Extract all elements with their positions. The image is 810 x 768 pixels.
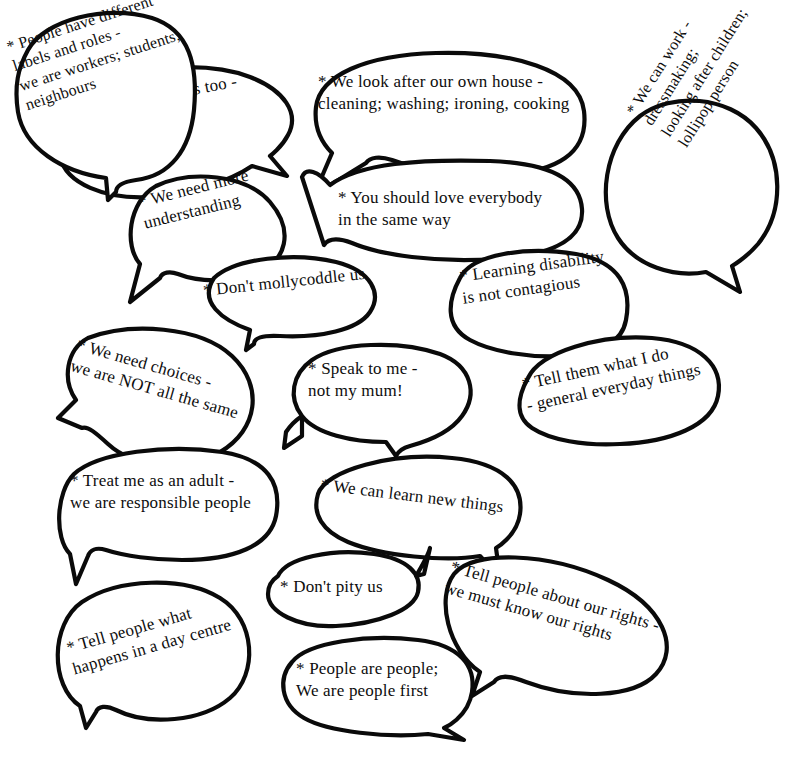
bubble-outline-dont-pity-us [258,546,438,641]
bubble-outline-speak-to-me [282,336,482,456]
bubble-outline-treat-me-as-an-adult [44,444,284,584]
bubble-outline-tell-people-what-happens [34,576,264,731]
bubble-outline-tell-them-what-i-do [500,330,725,455]
speech-bubble-speak-to-me: * Speak to me - not my mum! [282,336,482,456]
speech-bubble-diagram: * We have feelings too - we can be hurt … [0,0,810,768]
bubble-outline-people-are-people [268,634,488,749]
speech-bubble-treat-me-as-an-adult: * Treat me as an adult - we are responsi… [44,444,284,584]
speech-bubble-tell-people-what-happens: * Tell people what happens in a day cent… [34,576,264,731]
speech-bubble-dont-pity-us: * Don't pity us [258,546,438,641]
bubble-outline-people-have-different-labels [0,0,200,200]
speech-bubble-people-are-people: * People are people; We are people first [268,634,488,749]
speech-bubble-tell-them-what-i-do: * Tell them what I do - general everyday… [500,330,725,455]
